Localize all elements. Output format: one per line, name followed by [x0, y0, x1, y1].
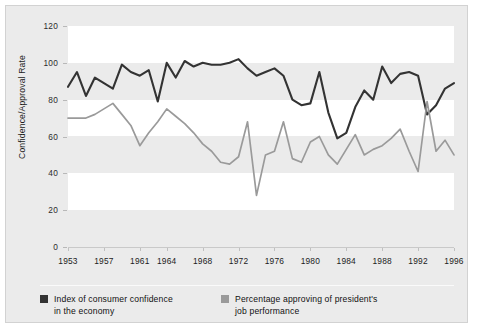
x-axis-tick [310, 248, 311, 251]
y-axis-tick-label: 20 [24, 205, 58, 215]
y-axis-tick-label: 100 [24, 58, 58, 68]
y-axis-tick-label: 40 [24, 168, 58, 178]
x-axis-tick [68, 248, 69, 251]
y-axis-tick-label: 60 [24, 132, 58, 142]
series-line [68, 102, 454, 196]
legend-label-consumer-confidence: Index of consumer confidence in the econ… [54, 294, 173, 317]
x-axis-tick-label: 1996 [434, 256, 474, 266]
plot-area [68, 26, 454, 247]
x-axis-tick [140, 248, 141, 251]
x-axis-tick-label: 1980 [290, 256, 330, 266]
y-axis-tick-label: 80 [24, 95, 58, 105]
x-axis-tick-label: 1976 [254, 256, 294, 266]
x-axis-tick [418, 248, 419, 251]
x-axis-tick [382, 248, 383, 251]
x-axis-tick-label: 1988 [362, 256, 402, 266]
y-axis-tick [63, 63, 67, 64]
legend-item-presidential-approval: Percentage approving of president's job … [221, 294, 378, 317]
series-lines [68, 26, 454, 247]
x-axis-tick [239, 248, 240, 251]
x-axis-tick-label: 1964 [147, 256, 187, 266]
y-axis-tick [63, 100, 67, 101]
x-axis-tick-label: 1984 [326, 256, 366, 266]
y-axis-tick [63, 210, 67, 211]
y-axis-tick-label: 0 [24, 242, 58, 252]
x-axis-tick-label: 1992 [398, 256, 438, 266]
x-axis-tick [454, 248, 455, 251]
y-axis-tick [63, 137, 67, 138]
y-axis-tick [63, 26, 67, 27]
x-axis-tick-label: 1972 [219, 256, 259, 266]
y-axis-tick-label: 120 [24, 21, 58, 31]
legend-item-consumer-confidence: Index of consumer confidence in the econ… [40, 294, 173, 317]
legend-swatch-presidential-approval [221, 295, 229, 303]
legend-swatch-consumer-confidence [40, 295, 48, 303]
x-axis-tick-label: 1957 [84, 256, 124, 266]
x-axis-tick-label: 1968 [183, 256, 223, 266]
chart-frame: Confidence/Approval Rate 120100806040200… [5, 5, 468, 323]
chart-page: Confidence/Approval Rate 120100806040200… [0, 0, 481, 333]
x-axis-line [68, 247, 454, 248]
x-axis-tick [274, 248, 275, 251]
legend-divider [40, 285, 454, 286]
x-axis-tick-label: 1953 [48, 256, 88, 266]
x-axis-tick [203, 248, 204, 251]
x-axis-tick [104, 248, 105, 251]
y-axis-tick [63, 247, 67, 248]
y-axis-tick [63, 173, 67, 174]
x-axis-tick [167, 248, 168, 251]
legend-label-presidential-approval: Percentage approving of president's job … [235, 294, 378, 317]
series-line [68, 59, 454, 138]
x-axis-tick [346, 248, 347, 251]
